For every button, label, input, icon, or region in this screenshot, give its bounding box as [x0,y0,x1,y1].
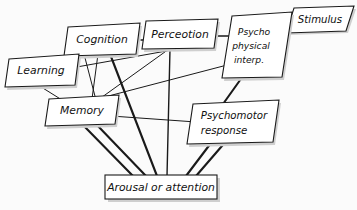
node-psychomotor-label-line2: response [201,125,248,136]
edge-memory-psychomotor [111,116,196,122]
diagram-canvas: Stimulus Psycho physical interp. Perceot… [0,0,357,210]
edge-memory-arousal-1 [82,124,133,176]
node-cognition[interactable]: Cognition [64,23,142,59]
edge-memory-arousal-2 [96,124,146,176]
node-arousal[interactable]: Arousal or attention [105,175,220,202]
node-psychophysical-label-line2: physical [231,40,270,51]
node-arousal-label: Arousal or attention [106,181,215,194]
node-learning-label: Learning [17,64,64,77]
node-learning[interactable]: Learning [5,54,81,90]
node-memory-label: Memory [60,104,105,117]
node-cognition-label: Cognition [76,33,128,46]
node-psychophysical-label-line3: interp. [234,54,264,65]
edge-cognition-memory-2 [84,54,96,100]
node-psychophysical-label-line1: Psycho [238,26,271,37]
node-psychomotor-label-line1: Psychomotor [201,110,268,121]
node-psychomotor[interactable]: Psychomotor response [187,100,281,147]
edge-psychophysical-memory [97,64,231,99]
node-psychophysical[interactable]: Psycho physical interp. [222,12,294,81]
block-diagram: Stimulus Psycho physical interp. Perceot… [0,0,357,210]
node-memory[interactable]: Memory [45,95,121,129]
node-psychomotor-shape [187,100,279,144]
node-perceotion[interactable]: Perceotion [142,19,220,52]
node-perceotion-label: Perceotion [151,28,209,41]
edge-perceotion-arousal [167,49,170,176]
node-stimulus[interactable]: Stimulus [286,6,356,35]
edge-cognition-memory [92,54,98,99]
node-stimulus-label: Stimulus [298,14,343,25]
